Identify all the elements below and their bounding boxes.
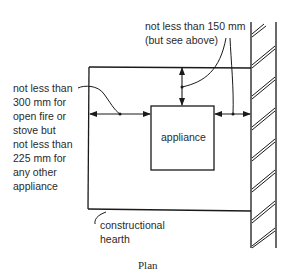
appliance-label: appliance [161,130,206,144]
diagram-caption: Plan [138,258,158,272]
side-clearance-label: not less than 300 mm for open fire or st… [13,81,73,193]
dimension-arrows [90,68,250,114]
wall-hatched [251,22,276,248]
top-clearance-label: not less than 150 mm (but see above) [145,19,245,47]
hearth-label: constructional hearth [100,218,165,246]
leader-lines [78,38,233,224]
